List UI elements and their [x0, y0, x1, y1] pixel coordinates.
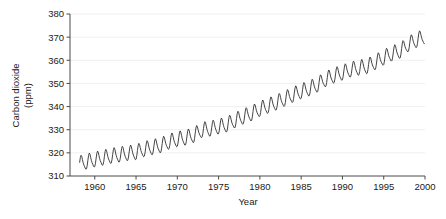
x-tick-label: 1970 [167, 181, 188, 192]
x-tick-label: 1990 [332, 181, 353, 192]
x-axis-label: Year [70, 196, 426, 207]
y-tick-label: 380 [48, 8, 64, 19]
co2-chart-figure: Carbon dioxide (ppm) 3103203303403503603… [0, 0, 446, 219]
x-axis-ticks: 196019651970197519801985199019952000 [84, 176, 435, 192]
x-tick-label: 1960 [84, 181, 105, 192]
y-tick-label: 360 [48, 55, 64, 66]
y-axis-label-line1: Carbon dioxide [11, 63, 22, 127]
x-tick-label: 1975 [208, 181, 229, 192]
y-tick-label: 320 [48, 147, 64, 158]
y-axis-ticks: 310320330340350360370380 [48, 8, 70, 181]
x-tick-label: 1995 [373, 181, 394, 192]
y-tick-label: 330 [48, 124, 64, 135]
x-tick-label: 1985 [291, 181, 312, 192]
y-axis-label-line2: (ppm) [22, 63, 34, 127]
gridlines [70, 14, 425, 153]
plot-area: 310320330340350360370380 196019651970197… [0, 0, 446, 219]
y-tick-label: 340 [48, 101, 64, 112]
x-tick-label: 1980 [249, 181, 270, 192]
y-tick-label: 350 [48, 78, 64, 89]
co2-data-line [80, 31, 425, 169]
y-tick-label: 310 [48, 170, 64, 181]
x-tick-label: 2000 [414, 181, 435, 192]
y-tick-label: 370 [48, 32, 64, 43]
x-tick-label: 1965 [125, 181, 146, 192]
y-axis-label: Carbon dioxide (ppm) [0, 0, 44, 190]
